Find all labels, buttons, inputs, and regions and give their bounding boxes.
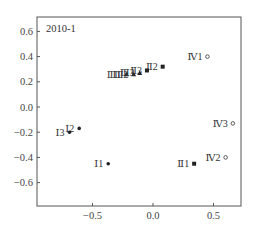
chart-title: 2010-1 xyxy=(46,23,76,34)
data-point: Ⅱ1 xyxy=(177,158,196,169)
data-point: Ⅰ2 xyxy=(65,123,81,134)
point-label: Ⅰ3 xyxy=(56,127,65,138)
point-label: Ⅱ1 xyxy=(177,158,189,169)
x-tick-label: −0.5 xyxy=(83,210,102,221)
data-points: Ⅰ1Ⅰ2Ⅰ3Ⅱ1Ⅱ2Ⅱ3Ⅲ1Ⅲ2Ⅲ3Ⅳ1Ⅳ2Ⅳ3 xyxy=(56,51,235,169)
y-tick-label: 0.6 xyxy=(20,26,33,37)
data-point: Ⅳ1 xyxy=(187,51,209,62)
data-point: Ⅰ1 xyxy=(94,158,110,169)
y-tick-label: −0.2 xyxy=(14,127,33,138)
plot-frame xyxy=(37,17,241,206)
point-label: Ⅳ3 xyxy=(213,118,228,129)
data-point: Ⅳ2 xyxy=(206,152,228,163)
point-label: Ⅲ3 xyxy=(120,67,135,78)
x-tick-label: 0.0 xyxy=(146,210,159,221)
y-tick-label: 0.0 xyxy=(20,102,33,113)
point-label: Ⅰ1 xyxy=(94,158,103,169)
data-point: Ⅳ3 xyxy=(213,118,235,129)
y-tick-label: −0.4 xyxy=(14,152,34,163)
y-tick-label: 0.2 xyxy=(20,76,33,87)
point-label: Ⅳ2 xyxy=(206,152,221,163)
y-tick-label: −0.6 xyxy=(14,177,33,188)
y-tick-label: 0.4 xyxy=(20,51,34,62)
point-label: Ⅳ1 xyxy=(187,51,202,62)
y-axis: 0.60.40.20.0−0.2−0.4−0.6 xyxy=(14,26,40,188)
x-tick-label: 0.5 xyxy=(207,210,220,221)
scatter-chart: 0.60.40.20.0−0.2−0.4−0.6 −0.50.00.5 2010… xyxy=(0,0,254,236)
